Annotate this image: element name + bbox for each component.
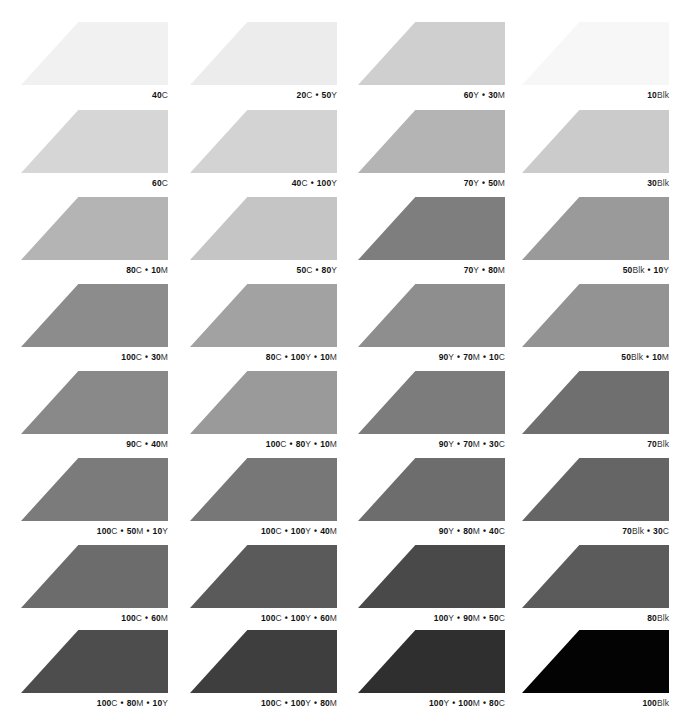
- label-separator: •: [454, 613, 463, 623]
- ink-percentage: 10: [489, 352, 499, 362]
- ink-name: M: [498, 265, 505, 275]
- swatch-label: 100C•80Y•10M: [266, 439, 337, 449]
- label-separator: •: [142, 265, 151, 275]
- ink-name: C: [275, 613, 281, 623]
- ink-name: M: [161, 439, 168, 449]
- ink-percentage: 80: [296, 439, 306, 449]
- ink-name: M: [498, 178, 505, 188]
- label-separator: •: [142, 439, 151, 449]
- color-swatch: [21, 545, 168, 608]
- label-separator: •: [454, 439, 463, 449]
- label-separator: •: [118, 526, 127, 536]
- swatch-label: 90C•40M: [126, 439, 168, 449]
- color-swatch: [190, 545, 337, 608]
- ink-name: C: [275, 352, 281, 362]
- ink-percentage: 30: [489, 439, 499, 449]
- swatch-label: 100C•50M•10Y: [97, 526, 168, 536]
- label-separator: •: [311, 526, 320, 536]
- ink-percentage: 60: [320, 613, 330, 623]
- ink-percentage: 50: [489, 613, 499, 623]
- swatch-cell: 90Y•80M•40C: [358, 458, 505, 540]
- ink-percentage: 10: [153, 698, 163, 708]
- color-swatch: [21, 284, 168, 347]
- swatch-label: 100Blk: [642, 698, 669, 708]
- ink-name: Y: [331, 265, 337, 275]
- ink-percentage: 80: [127, 698, 137, 708]
- ink-percentage: 30: [647, 178, 657, 188]
- ink-percentage: 80: [488, 265, 498, 275]
- color-swatch: [21, 197, 168, 260]
- label-separator: •: [311, 698, 320, 708]
- ink-name: M: [473, 698, 480, 708]
- color-swatch: [358, 545, 505, 608]
- ink-percentage: 100: [121, 613, 135, 623]
- ink-percentage: 100: [429, 698, 443, 708]
- swatch-cell: 100C•80Y•10M: [190, 371, 337, 453]
- swatch-label: 60C: [152, 178, 168, 188]
- ink-percentage: 50: [127, 526, 137, 536]
- ink-name: M: [330, 526, 337, 536]
- swatch-cell: 70Blk•30C: [522, 458, 669, 540]
- swatch-cell: 50Blk•10M: [522, 284, 669, 366]
- swatch-cell: 80C•10M: [21, 197, 168, 279]
- ink-name: Blk: [657, 178, 669, 188]
- swatch-cell: 60C: [21, 110, 168, 192]
- ink-name: C: [111, 698, 117, 708]
- label-separator: •: [282, 526, 291, 536]
- swatch-label: 100Y•90M•50C: [434, 613, 505, 623]
- ink-percentage: 40: [489, 526, 499, 536]
- label-separator: •: [282, 352, 291, 362]
- ink-percentage: 70: [463, 439, 473, 449]
- ink-percentage: 60: [152, 178, 162, 188]
- swatch-cell: 100C•100Y•80M: [190, 630, 337, 712]
- label-separator: •: [287, 439, 296, 449]
- swatch-label: 60Y•30M: [464, 90, 505, 100]
- ink-name: Y: [331, 178, 337, 188]
- color-swatch: [190, 284, 337, 347]
- ink-percentage: 60: [151, 613, 161, 623]
- color-swatch: [21, 22, 168, 85]
- label-separator: •: [479, 178, 488, 188]
- ink-percentage: 30: [653, 526, 663, 536]
- label-separator: •: [143, 698, 152, 708]
- color-swatch: [21, 110, 168, 173]
- ink-name: M: [662, 352, 669, 362]
- ink-percentage: 50: [623, 265, 633, 275]
- color-swatch: [522, 110, 669, 173]
- swatch-cell: 50Blk•10Y: [522, 197, 669, 279]
- ink-percentage: 70: [464, 178, 474, 188]
- color-swatch: [358, 630, 505, 693]
- swatch-cell: 70Y•80M: [358, 197, 505, 279]
- color-swatch: [358, 110, 505, 173]
- swatch-label: 90Y•70M•30C: [439, 439, 505, 449]
- swatch-cell: 100C•30M: [21, 284, 168, 366]
- swatch-label: 90Y•80M•40C: [439, 526, 505, 536]
- ink-percentage: 80: [463, 526, 473, 536]
- ink-name: Y: [162, 526, 168, 536]
- color-swatch: [358, 371, 505, 434]
- ink-percentage: 70: [464, 265, 474, 275]
- color-swatch: [522, 458, 669, 521]
- ink-percentage: 100: [642, 698, 656, 708]
- ink-name: M: [473, 526, 480, 536]
- ink-name: C: [499, 439, 505, 449]
- label-separator: •: [480, 613, 489, 623]
- ink-percentage: 80: [322, 265, 332, 275]
- label-separator: •: [479, 265, 488, 275]
- swatch-cell: 100Y•90M•50C: [358, 545, 505, 627]
- swatch-cell: 100Y•100M•80C: [358, 630, 505, 712]
- ink-percentage: 40: [292, 178, 302, 188]
- ink-percentage: 40: [151, 439, 161, 449]
- label-separator: •: [644, 526, 653, 536]
- ink-percentage: 80: [126, 265, 136, 275]
- ink-percentage: 70: [463, 352, 473, 362]
- swatch-cell: 50C•80Y: [190, 197, 337, 279]
- color-swatch: [358, 197, 505, 260]
- ink-name: M: [161, 265, 168, 275]
- swatch-label: 80Blk: [647, 613, 669, 623]
- ink-name: M: [473, 352, 480, 362]
- label-separator: •: [480, 439, 489, 449]
- ink-name: Y: [162, 698, 168, 708]
- swatch-label: 70Blk•30C: [622, 526, 669, 536]
- swatch-cell: 100C•80M•10Y: [21, 630, 168, 712]
